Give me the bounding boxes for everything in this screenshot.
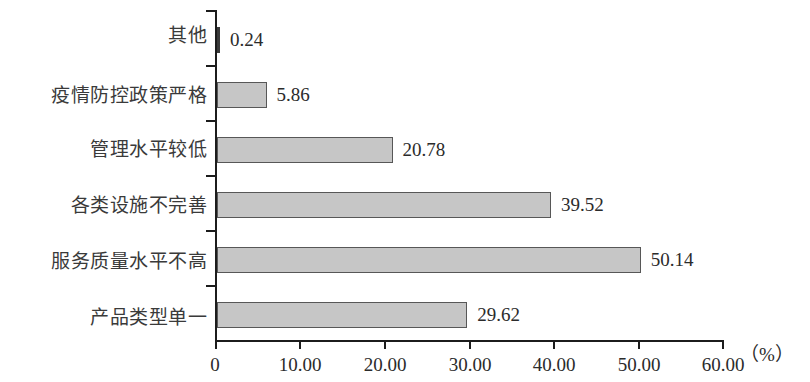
bar-1 bbox=[217, 82, 267, 108]
bar-3 bbox=[217, 192, 551, 218]
x-tick-label-20: 20.00 bbox=[364, 355, 407, 374]
x-tick-label-30: 30.00 bbox=[449, 355, 492, 374]
x-tick-label-50: 50.00 bbox=[618, 355, 661, 374]
category-label-1: 疫情防控政策严格 bbox=[0, 86, 207, 105]
x-axis-unit-label: （%） bbox=[740, 345, 794, 364]
x-tick-label-0: 0 bbox=[210, 355, 220, 374]
x-axis-tick-0 bbox=[215, 340, 217, 349]
bar-chart: 其他 疫情防控政策严格 管理水平较低 各类设施不完善 服务质量水平不高 产品类型… bbox=[0, 0, 810, 382]
category-label-3: 各类设施不完善 bbox=[0, 196, 207, 215]
x-tick-label-60: 60.00 bbox=[702, 355, 745, 374]
bar-4 bbox=[217, 247, 641, 273]
x-tick-label-10: 10.00 bbox=[279, 355, 322, 374]
bar-value-4: 50.14 bbox=[651, 247, 694, 273]
x-tick-label-40: 40.00 bbox=[533, 355, 576, 374]
x-axis-tick-10 bbox=[299, 340, 301, 349]
bar-value-1: 5.86 bbox=[277, 82, 310, 108]
x-axis-tick-30 bbox=[469, 340, 471, 349]
bar-2 bbox=[217, 137, 393, 163]
bar-value-3: 39.52 bbox=[561, 192, 604, 218]
y-axis-tick-1 bbox=[206, 120, 215, 122]
x-axis-tick-20 bbox=[384, 340, 386, 349]
category-label-0: 其他 bbox=[0, 26, 207, 45]
category-label-5: 产品类型单一 bbox=[0, 308, 207, 327]
y-axis-tick-0 bbox=[206, 65, 215, 67]
y-axis-tick-top bbox=[206, 10, 215, 12]
y-axis-tick-2 bbox=[206, 175, 215, 177]
x-axis-tick-50 bbox=[638, 340, 640, 349]
category-label-4: 服务质量水平不高 bbox=[0, 252, 207, 271]
y-axis-line bbox=[215, 10, 217, 341]
bar-value-2: 20.78 bbox=[403, 137, 446, 163]
x-axis-tick-60 bbox=[722, 340, 724, 349]
bar-value-5: 29.62 bbox=[477, 302, 520, 328]
bar-0 bbox=[217, 27, 220, 53]
x-axis-tick-40 bbox=[553, 340, 555, 349]
bar-5 bbox=[217, 302, 467, 328]
bar-value-0: 0.24 bbox=[230, 27, 263, 53]
y-axis-tick-4 bbox=[206, 285, 215, 287]
plot-area: 0.24 5.86 20.78 39.52 50.14 29.62 0 10.0… bbox=[215, 10, 725, 340]
category-label-2: 管理水平较低 bbox=[0, 140, 207, 159]
y-axis-tick-3 bbox=[206, 230, 215, 232]
